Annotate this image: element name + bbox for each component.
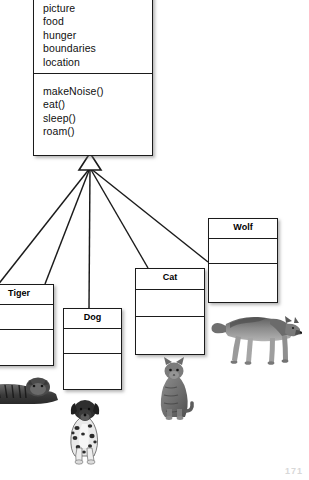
tiger-title: Tiger — [0, 285, 53, 305]
inheritance-line-dog — [89, 168, 90, 308]
animal-attributes-compartment: picture food hunger boundaries location — [34, 0, 152, 74]
animal-methods-compartment: makeNoise() eat() sleep() roam() — [34, 74, 152, 156]
class-box-tiger[interactable]: Tiger — [0, 284, 54, 366]
tiger-attributes-compartment — [0, 305, 53, 330]
dog-photo — [62, 390, 112, 466]
attribute-food: food — [43, 15, 152, 28]
inheritance-line-cat — [90, 168, 148, 268]
method-roam: roam() — [43, 125, 152, 138]
class-box-animal[interactable]: picture food hunger boundaries location … — [33, 0, 153, 156]
dog-attributes-compartment — [64, 329, 121, 354]
inheritance-line-tiger — [45, 168, 90, 284]
method-eat: eat() — [43, 98, 152, 111]
tiger-photo — [0, 367, 68, 417]
attribute-picture: picture — [43, 2, 152, 15]
class-box-wolf[interactable]: Wolf — [208, 218, 278, 303]
inheritance-line-wolf — [90, 168, 208, 262]
cat-title: Cat — [136, 269, 204, 290]
attribute-boundaries: boundaries — [43, 42, 152, 55]
method-sleep: sleep() — [43, 112, 152, 125]
cat-photo — [155, 355, 195, 423]
uml-diagram-canvas: picture food hunger boundaries location … — [0, 0, 309, 480]
class-box-dog[interactable]: Dog — [63, 308, 122, 390]
wolf-title: Wolf — [209, 219, 277, 239]
wolf-attributes-compartment — [209, 239, 277, 264]
method-makenoise: makeNoise() — [43, 85, 152, 98]
inheritance-line-hidden — [0, 168, 90, 300]
page-number-artifact: 171 — [285, 466, 303, 476]
wolf-photo — [210, 304, 302, 372]
dog-title: Dog — [64, 309, 121, 329]
cat-attributes-compartment — [136, 290, 204, 317]
attribute-location: location — [43, 56, 152, 69]
class-box-cat[interactable]: Cat — [135, 268, 205, 355]
attribute-hunger: hunger — [43, 29, 152, 42]
